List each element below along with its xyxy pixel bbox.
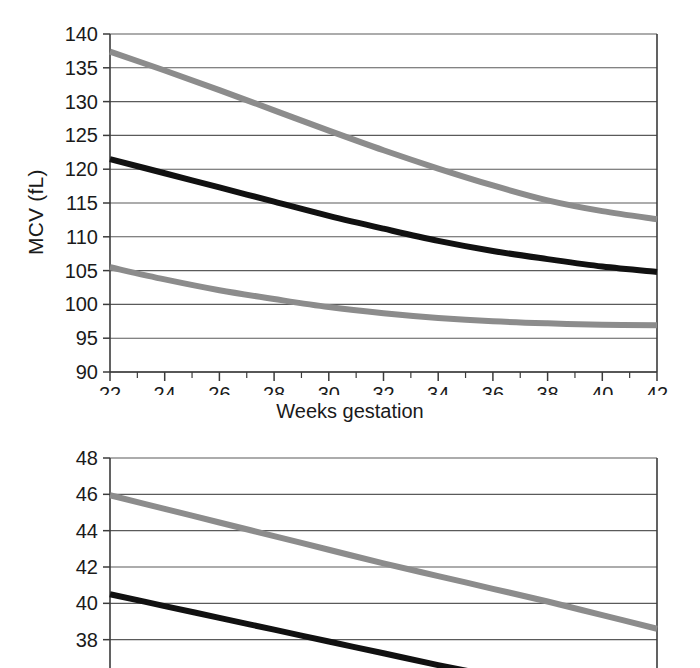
x-tick-labels-mcv: 2224262830323436384042 bbox=[99, 383, 668, 395]
x-tick-label-42: 42 bbox=[646, 383, 668, 395]
y-tick-label-40: 40 bbox=[76, 592, 98, 614]
x-tick-label-30: 30 bbox=[318, 383, 340, 395]
y-tick-label-44: 44 bbox=[76, 520, 98, 542]
series-line-lower-limit bbox=[110, 267, 657, 325]
chart-panel-mch: MCH (pg) 384042444648 bbox=[0, 430, 700, 668]
y-tick-labels-mcv: 9095100105110115120125130135140 bbox=[65, 23, 98, 383]
series-line-upper-limit bbox=[110, 495, 657, 629]
x-axis-label-mcv: Weeks gestation bbox=[0, 400, 700, 423]
tick-marks-mch bbox=[103, 458, 110, 640]
x-tick-label-36: 36 bbox=[482, 383, 504, 395]
y-tick-label-140: 140 bbox=[65, 23, 98, 45]
y-tick-label-90: 90 bbox=[76, 361, 98, 383]
y-tick-label-48: 48 bbox=[76, 447, 98, 469]
y-tick-label-46: 46 bbox=[76, 483, 98, 505]
y-axis-label-mcv: MCV (fL) bbox=[24, 169, 48, 255]
data-series-mch bbox=[110, 495, 657, 668]
x-tick-label-28: 28 bbox=[263, 383, 285, 395]
figure-page: MCV (fL) 9095100105110115120125130135140… bbox=[0, 0, 700, 668]
x-tick-label-24: 24 bbox=[154, 383, 176, 395]
y-tick-label-42: 42 bbox=[76, 556, 98, 578]
y-tick-label-95: 95 bbox=[76, 327, 98, 349]
x-tick-label-26: 26 bbox=[208, 383, 230, 395]
plot-area-mcv: 9095100105110115120125130135140 22242628… bbox=[0, 0, 700, 395]
y-tick-label-130: 130 bbox=[65, 91, 98, 113]
x-tick-label-38: 38 bbox=[536, 383, 558, 395]
y-tick-label-135: 135 bbox=[65, 57, 98, 79]
y-tick-labels-mch: 384042444648 bbox=[76, 447, 98, 651]
y-tick-label-125: 125 bbox=[65, 124, 98, 146]
y-tick-label-120: 120 bbox=[65, 158, 98, 180]
y-tick-label-100: 100 bbox=[65, 293, 98, 315]
plot-area-mch: 384042444648 bbox=[0, 430, 700, 668]
y-tick-label-110: 110 bbox=[66, 226, 98, 248]
data-series-mcv bbox=[110, 52, 657, 326]
series-line-mean bbox=[110, 159, 657, 272]
y-tick-label-38: 38 bbox=[76, 629, 98, 651]
y-tick-label-115: 115 bbox=[66, 192, 98, 214]
x-tick-label-40: 40 bbox=[591, 383, 613, 395]
x-tick-label-32: 32 bbox=[372, 383, 394, 395]
x-tick-label-34: 34 bbox=[427, 383, 449, 395]
x-tick-label-22: 22 bbox=[99, 383, 121, 395]
y-tick-label-105: 105 bbox=[65, 260, 98, 282]
chart-panel-mcv: MCV (fL) 9095100105110115120125130135140… bbox=[0, 0, 700, 430]
